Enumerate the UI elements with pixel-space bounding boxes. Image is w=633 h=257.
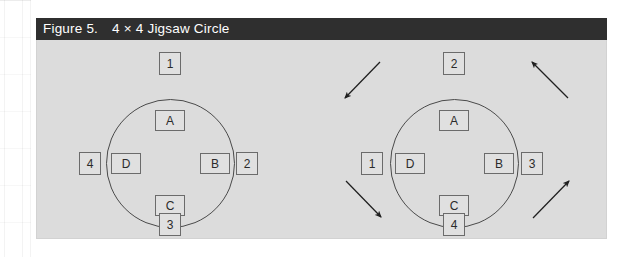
- outer-box-bottom-before: 3: [159, 213, 181, 236]
- arrow-top-left-icon: [345, 62, 380, 98]
- outer-box-top-before: 1: [159, 52, 181, 75]
- figure-body: A B C D 1 2 3 4 A B C D 2 3 4 1: [36, 40, 607, 239]
- inner-box-top-before: A: [155, 110, 185, 131]
- inner-box-left-after: D: [395, 153, 425, 174]
- figure-container: Figure 5.4 × 4 Jigsaw Circle A B C D 1 2…: [36, 18, 607, 240]
- outer-box-left-before: 4: [79, 152, 101, 175]
- inner-box-left-before: D: [111, 153, 141, 174]
- figure-header: Figure 5.4 × 4 Jigsaw Circle: [36, 18, 607, 40]
- figure-label: Figure 5.: [36, 21, 98, 36]
- arrow-bottom-left-icon: [346, 181, 381, 217]
- outer-box-top-after: 2: [443, 52, 465, 75]
- jigsaw-circle-before: A B C D 1 2 3 4: [37, 40, 322, 238]
- page-edge-artifact: [0, 0, 31, 257]
- inner-box-right-after: B: [484, 153, 514, 174]
- figure-title: 4 × 4 Jigsaw Circle: [98, 21, 229, 36]
- jigsaw-circle-after: A B C D 2 3 4 1: [321, 40, 606, 238]
- inner-box-right-before: B: [200, 153, 230, 174]
- arrow-bottom-right-icon: [533, 181, 569, 218]
- inner-box-top-after: A: [439, 110, 469, 131]
- outer-box-right-before: 2: [236, 152, 258, 175]
- outer-box-right-after: 3: [521, 152, 543, 175]
- outer-box-left-after: 1: [361, 152, 383, 175]
- arrow-top-right-icon: [532, 62, 568, 98]
- outer-box-bottom-after: 4: [443, 213, 465, 236]
